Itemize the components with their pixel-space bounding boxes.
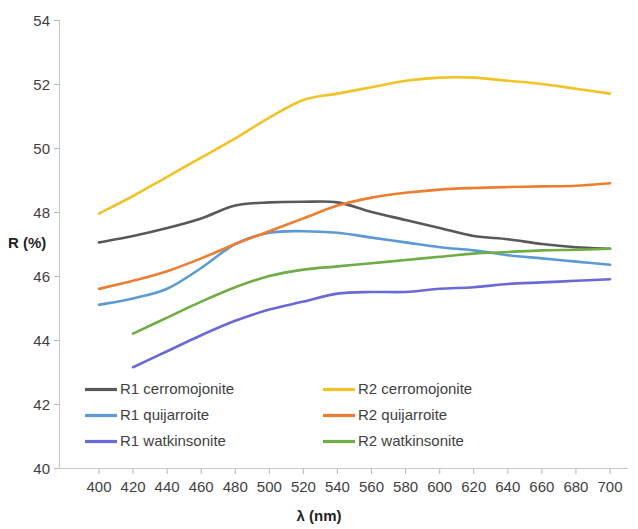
x-axis-title: λ (nm) <box>297 507 342 524</box>
y-axis-tick-marks <box>54 21 60 469</box>
x-tick-label: 480 <box>223 478 248 495</box>
chart-page: 4042444648505254 40042044046048050052054… <box>0 0 638 529</box>
y-tick-label: 48 <box>33 204 50 221</box>
y-tick-label: 52 <box>33 76 50 93</box>
legend-label: R1 watkinsonite <box>120 432 226 449</box>
x-tick-label: 420 <box>121 478 146 495</box>
series-line-r1-watkinsonite <box>133 279 610 367</box>
legend-label: R1 quijarroite <box>120 406 209 423</box>
x-tick-label: 620 <box>461 478 486 495</box>
legend-label: R1 cerromojonite <box>120 380 234 397</box>
reflectance-spectra-chart: 4042444648505254 40042044046048050052054… <box>0 0 638 529</box>
chart-legend: R1 cerromojoniteR2 cerromojoniteR1 quija… <box>85 380 472 449</box>
y-tick-label: 40 <box>33 460 50 477</box>
x-tick-label: 440 <box>155 478 180 495</box>
x-tick-label: 460 <box>189 478 214 495</box>
legend-label: R2 watkinsonite <box>358 432 464 449</box>
x-tick-label: 540 <box>325 478 350 495</box>
legend-label: R2 cerromojonite <box>358 380 472 397</box>
x-tick-label: 640 <box>495 478 520 495</box>
x-tick-label: 520 <box>291 478 316 495</box>
y-tick-label: 54 <box>33 12 50 29</box>
x-tick-label: 660 <box>529 478 554 495</box>
series-line-r1-cerromojonite <box>99 201 610 248</box>
x-tick-label: 560 <box>359 478 384 495</box>
legend-label: R2 quijarroite <box>358 406 447 423</box>
y-tick-label: 42 <box>33 396 50 413</box>
x-axis-tick-labels: 4004204404604805005205405605806006206406… <box>86 478 622 495</box>
x-tick-label: 700 <box>597 478 622 495</box>
x-tick-label: 580 <box>393 478 418 495</box>
y-axis-title: R (%) <box>8 234 46 251</box>
x-tick-label: 400 <box>86 478 111 495</box>
series-line-r2-cerromojonite <box>99 77 610 213</box>
x-tick-label: 680 <box>563 478 588 495</box>
x-tick-label: 600 <box>427 478 452 495</box>
y-tick-label: 46 <box>33 268 50 285</box>
x-tick-label: 500 <box>257 478 282 495</box>
series-lines <box>99 77 610 367</box>
x-axis-tick-marks <box>99 469 610 475</box>
y-tick-label: 44 <box>33 332 50 349</box>
y-tick-label: 50 <box>33 140 50 157</box>
